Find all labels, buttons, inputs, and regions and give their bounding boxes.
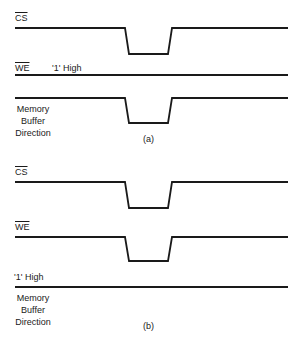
label-line: Buffer [8,115,58,127]
signal-label-memory-buffer-direction: Memory Buffer Direction [8,103,58,139]
waveform-b-we [15,237,288,261]
label-line: Direction [8,316,58,328]
panel-caption-b: (b) [143,321,154,331]
panel-caption-a: (a) [143,134,154,144]
timing-diagram [0,0,295,341]
waveform-b-cs [15,182,288,208]
signal-label-cs: CS [15,167,28,178]
waveform-a-cs [15,28,288,54]
signal-label-memory-buffer-direction: Memory Buffer Direction [8,292,58,328]
signal-label-cs: CS [15,13,28,24]
memory-buffer-high-note: '1' High [14,272,43,283]
label-line: Memory [8,292,58,304]
label-line: Memory [8,103,58,115]
label-line: Direction [8,127,58,139]
signal-label-we: WE [15,63,30,74]
signal-label-we: WE [15,222,30,233]
label-line: Buffer [8,304,58,316]
we-high-note: '1' High [52,63,81,74]
